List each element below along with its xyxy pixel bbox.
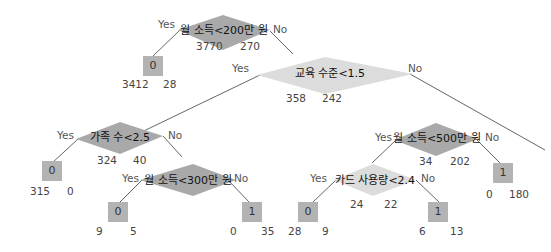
leaf-count-b: 9 <box>322 225 329 237</box>
yes-label: Yes <box>158 18 175 30</box>
leaf-count-b: 13 <box>450 225 463 237</box>
right-count: 242 <box>322 92 342 104</box>
tree-graphics <box>0 0 551 252</box>
left-count: 358 <box>286 92 306 104</box>
left-count: 34 <box>419 155 432 167</box>
leaf-count-b: 28 <box>163 78 176 90</box>
right-count: 202 <box>450 155 470 167</box>
leaf-class: 1 <box>249 206 256 218</box>
right-count: 270 <box>240 40 260 52</box>
leaf-count-b: 35 <box>261 225 274 237</box>
no-label: No <box>408 62 422 74</box>
condition-label: 월 소득<500만 원 <box>393 133 480 145</box>
yes-label: Yes <box>122 172 139 184</box>
condition-label: 교육 수준<1.5 <box>295 68 365 80</box>
yes-label: Yes <box>57 129 74 141</box>
leaf-class: 1 <box>435 206 442 218</box>
leaf-count-a: 0 <box>230 225 237 237</box>
left-count: 24 <box>350 198 363 210</box>
leaf-count-a: 3412 <box>122 78 149 90</box>
leaf-class: 0 <box>150 60 157 72</box>
edge-n5-yes <box>372 140 396 163</box>
leaf-count-b: 0 <box>67 185 74 197</box>
leaf-class: 0 <box>305 206 312 218</box>
decision-tree: Yes 월 소득<200만 원 No 3770 270 0 3412 28 Ye… <box>0 0 551 252</box>
no-label: No <box>234 172 248 184</box>
leaf-class: 1 <box>500 167 507 179</box>
left-count: 324 <box>97 154 117 166</box>
right-count: 22 <box>384 198 397 210</box>
yes-label: Yes <box>232 62 249 74</box>
no-label: No <box>485 131 499 143</box>
leaf-class: 0 <box>115 206 122 218</box>
yes-label: Yes <box>375 131 392 143</box>
left-count: 3770 <box>196 40 223 52</box>
no-label: No <box>168 129 182 141</box>
leaf-count-b: 180 <box>509 188 529 200</box>
leaf-count-a: 9 <box>96 225 103 237</box>
condition-label: 가족 수<2.5 <box>90 132 150 144</box>
right-count: 40 <box>133 154 146 166</box>
leaf-count-a: 6 <box>419 225 426 237</box>
edge-n3-yes <box>52 139 78 163</box>
no-label: No <box>273 23 287 35</box>
leaf-count-b: 5 <box>130 225 137 237</box>
edge-n1-yes <box>152 30 180 57</box>
leaf-count-a: 315 <box>30 185 50 197</box>
condition-label: 월 소득<200만 원 <box>180 25 267 37</box>
leaf-class: 0 <box>49 165 56 177</box>
condition-label: 월 소득<300만 원 <box>144 175 231 187</box>
no-label: No <box>421 172 435 184</box>
leaf-count-a: 0 <box>486 188 493 200</box>
condition-label: 카드 사용량<2.4 <box>335 175 415 187</box>
yes-label: Yes <box>310 172 327 184</box>
leaf-count-a: 28 <box>288 225 301 237</box>
